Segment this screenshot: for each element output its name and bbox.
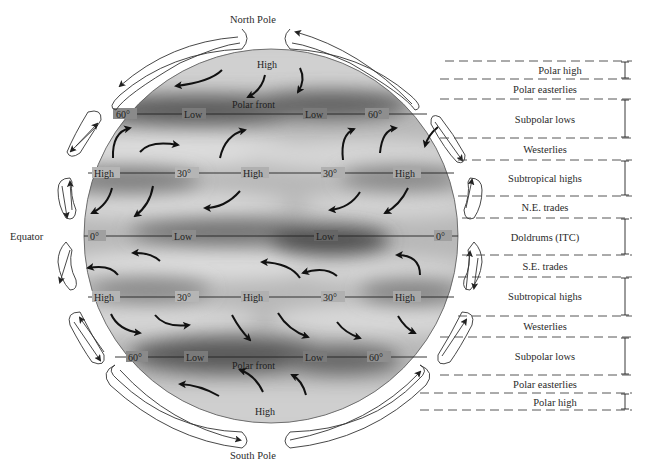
- svg-text:High: High: [94, 168, 114, 179]
- zone-label: Polar easterlies: [513, 379, 577, 390]
- svg-text:High: High: [395, 292, 415, 303]
- svg-text:Low: Low: [305, 109, 324, 120]
- svg-text:High: High: [243, 168, 263, 179]
- zone-label: Subpolar lows: [515, 351, 575, 362]
- zone-label: Polar easterlies: [513, 84, 577, 95]
- svg-text:Low: Low: [174, 231, 193, 242]
- svg-text:60°: 60°: [128, 352, 142, 363]
- svg-text:30°: 30°: [177, 292, 191, 303]
- zone-label: Westerlies: [523, 321, 566, 332]
- svg-text:Low: Low: [186, 352, 205, 363]
- zone-labels: Polar high Polar easterlies Subpolar low…: [508, 65, 582, 408]
- svg-text:60°: 60°: [369, 352, 383, 363]
- svg-text:0°: 0°: [90, 231, 99, 242]
- circulation-diagram: High Polar front 60° Low Low 60° High 30…: [0, 0, 647, 472]
- svg-text:Low: Low: [184, 109, 203, 120]
- label-north-pole: North Pole: [230, 14, 276, 25]
- svg-text:60°: 60°: [116, 109, 130, 120]
- svg-text:Low: Low: [316, 231, 335, 242]
- zone-label: S.E. trades: [522, 261, 567, 272]
- zone-label: Polar high: [533, 397, 577, 408]
- zone-label: Subtropical highs: [508, 173, 582, 184]
- svg-text:30°: 30°: [177, 168, 191, 179]
- svg-text:60°: 60°: [368, 109, 382, 120]
- svg-text:30°: 30°: [323, 168, 337, 179]
- label-bottom-high: High: [255, 406, 275, 417]
- label-south-pole: South Pole: [230, 450, 276, 461]
- zone-label: N.E. trades: [522, 202, 569, 213]
- zone-label: Polar high: [538, 65, 582, 76]
- zone-brackets: [621, 62, 629, 409]
- svg-text:High: High: [395, 168, 415, 179]
- label-polar-front-north: Polar front: [232, 99, 275, 110]
- zone-label: Subtropical highs: [508, 291, 582, 302]
- svg-text:High: High: [243, 292, 263, 303]
- svg-text:30°: 30°: [323, 292, 337, 303]
- label-top-high: High: [257, 59, 277, 70]
- svg-text:0°: 0°: [436, 231, 445, 242]
- zone-label: Doldrums (ITC): [511, 232, 580, 244]
- svg-text:Low: Low: [305, 352, 324, 363]
- label-polar-front-south: Polar front: [232, 360, 275, 371]
- zone-label: Subpolar lows: [515, 114, 575, 125]
- label-equator: Equator: [10, 231, 44, 242]
- svg-text:High: High: [94, 292, 114, 303]
- zone-label: Westerlies: [523, 144, 566, 155]
